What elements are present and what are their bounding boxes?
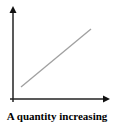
diagram-plot bbox=[0, 0, 114, 110]
x-axis-arrow-icon bbox=[103, 96, 110, 103]
increasing-line bbox=[21, 29, 91, 87]
y-axis-arrow-icon bbox=[10, 6, 17, 13]
diagram-caption: A quantity increasing bbox=[0, 110, 114, 122]
